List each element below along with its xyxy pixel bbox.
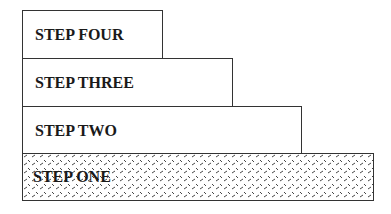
- step-two-label: STEP TWO: [35, 122, 117, 140]
- step-three-block: STEP THREE: [22, 58, 233, 107]
- step-two-block: STEP TWO: [22, 106, 302, 155]
- step-four-block: STEP FOUR: [22, 10, 163, 59]
- step-three-label: STEP THREE: [35, 74, 134, 92]
- step-one-label: STEP ONE: [33, 168, 111, 186]
- step-four-label: STEP FOUR: [35, 26, 123, 44]
- step-one-block: STEP ONE: [22, 153, 374, 201]
